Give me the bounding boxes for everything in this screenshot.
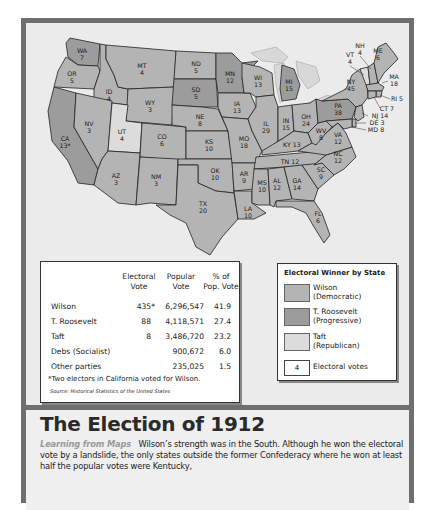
popular-vote: 3,486,720: [159, 332, 204, 341]
svg-text:12: 12: [273, 184, 281, 191]
svg-text:8: 8: [319, 134, 323, 141]
svg-text:12: 12: [226, 77, 234, 84]
svg-text:4: 4: [140, 69, 144, 76]
svg-text:WA: WA: [77, 47, 88, 54]
percent-vote: 41.9: [207, 302, 231, 311]
popular-vote: 6,296,547: [159, 302, 204, 311]
legend-taft-party: (Republican): [313, 342, 360, 351]
state-fl[interactable]: [276, 201, 330, 243]
svg-text:38: 38: [334, 109, 342, 116]
svg-text:7: 7: [80, 54, 84, 61]
legend-ev-sample: 4: [284, 360, 310, 376]
header-percent-line2: Pop. Vote: [201, 282, 241, 292]
popular-vote: 4,118,571: [159, 317, 204, 326]
svg-text:24: 24: [302, 120, 310, 127]
percent-vote: 27.4: [207, 317, 231, 326]
svg-text:OR: OR: [67, 70, 77, 77]
svg-text:MA: MA: [389, 73, 399, 80]
header-electoral: Electoral Vote: [119, 272, 159, 292]
svg-text:SD: SD: [192, 86, 201, 93]
svg-text:MS: MS: [257, 179, 266, 186]
table-row: Other parties 235,025 1.5: [51, 362, 231, 374]
svg-text:ID: ID: [106, 88, 113, 95]
header-popular: Popular Vote: [159, 272, 203, 292]
svg-text:6: 6: [160, 140, 164, 147]
svg-text:10: 10: [244, 212, 252, 219]
svg-text:WI: WI: [254, 74, 262, 81]
popular-vote: 235,025: [159, 362, 204, 371]
svg-text:10: 10: [258, 186, 266, 193]
svg-text:MI: MI: [285, 78, 292, 85]
table-footnote: *Two electors in California voted for Wi…: [48, 375, 200, 383]
svg-text:IA: IA: [234, 100, 241, 107]
table-row: Debs (Socialist) 900,672 6.0: [51, 347, 231, 359]
svg-text:9: 9: [319, 173, 323, 180]
svg-text:20: 20: [199, 207, 207, 214]
svg-text:FL: FL: [314, 210, 322, 217]
svg-text:MN: MN: [225, 70, 235, 77]
svg-text:NV: NV: [84, 120, 94, 127]
svg-text:10: 10: [205, 145, 213, 152]
legend-wilson-party: (Democratic): [313, 293, 361, 302]
svg-text:WY: WY: [145, 99, 155, 106]
header-percent: % of Pop. Vote: [201, 272, 241, 292]
state-ct[interactable]: [368, 91, 376, 99]
legend-title: Electoral Winner by State: [284, 269, 385, 277]
svg-text:5: 5: [194, 67, 198, 74]
svg-text:IL: IL: [263, 120, 269, 127]
svg-text:KS: KS: [205, 138, 213, 145]
candidate-name: Other parties: [51, 362, 101, 371]
legend-label-wilson: Wilson (Democratic): [313, 284, 361, 301]
svg-text:5: 5: [194, 93, 198, 100]
svg-text:ND: ND: [191, 60, 201, 67]
svg-text:4: 4: [358, 49, 362, 56]
table-row: T. Roosevelt 88 4,118,571 27.4: [51, 317, 231, 329]
svg-text:14: 14: [293, 184, 301, 191]
legend-roosevelt-party: (Progressive): [313, 317, 361, 326]
svg-text:15: 15: [282, 124, 290, 131]
svg-text:KY 13: KY 13: [283, 141, 301, 148]
header-electoral-line1: Electoral: [119, 272, 159, 282]
electoral-vote: 88: [131, 317, 151, 326]
header-popular-line2: Vote: [159, 282, 203, 292]
svg-text:3: 3: [148, 106, 152, 113]
svg-text:3: 3: [154, 180, 158, 187]
caption-lead: Learning from Maps: [40, 439, 131, 449]
state-ma[interactable]: [366, 83, 384, 91]
svg-text:IN: IN: [283, 117, 290, 124]
svg-text:TX: TX: [198, 200, 208, 207]
svg-text:45: 45: [347, 85, 355, 92]
svg-text:GA: GA: [292, 177, 302, 184]
caption-area: The Election of 1912 Learning from Maps …: [26, 410, 409, 510]
legend-ev-label: Electoral votes: [313, 363, 368, 372]
svg-text:AL: AL: [273, 177, 281, 184]
svg-text:AZ: AZ: [112, 172, 121, 179]
svg-text:18: 18: [390, 80, 398, 87]
svg-text:OH: OH: [301, 113, 311, 120]
svg-text:LA: LA: [244, 205, 253, 212]
table-source: Source: Historical Statistics of the Uni…: [50, 388, 170, 394]
svg-text:6: 6: [316, 217, 320, 224]
svg-text:NY: NY: [347, 78, 356, 85]
svg-text:CT 7: CT 7: [380, 105, 394, 112]
electoral-vote: 8: [131, 332, 151, 341]
state-ri[interactable]: [376, 91, 382, 97]
candidate-name: Debs (Socialist): [51, 347, 110, 356]
state-de[interactable]: [352, 119, 356, 127]
candidate-name: T. Roosevelt: [51, 317, 97, 326]
svg-text:4: 4: [348, 58, 352, 65]
svg-text:VA: VA: [334, 131, 343, 138]
svg-text:SC: SC: [317, 166, 326, 173]
svg-text:WV: WV: [316, 127, 327, 134]
svg-text:ME: ME: [373, 47, 382, 54]
svg-text:UT: UT: [118, 128, 127, 135]
svg-text:18: 18: [240, 142, 248, 149]
svg-text:TN 12: TN 12: [280, 158, 300, 165]
svg-text:CO: CO: [157, 133, 166, 140]
lake-superior: [251, 47, 288, 63]
svg-text:OK: OK: [210, 167, 220, 174]
svg-text:3: 3: [114, 179, 118, 186]
popular-vote: 900,672: [159, 347, 204, 356]
svg-text:VT: VT: [346, 51, 354, 58]
source-label: Source:: [50, 388, 69, 394]
